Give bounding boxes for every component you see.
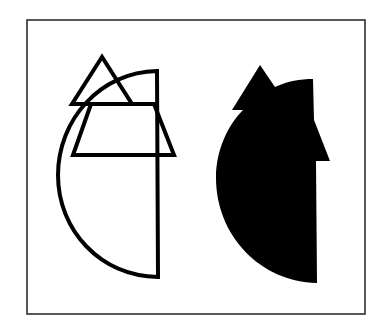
figure-canvas xyxy=(0,0,384,336)
small-triangle-outline xyxy=(72,57,132,104)
left-outline-figure xyxy=(58,57,174,277)
silhouette-shape xyxy=(216,65,330,283)
right-silhouette-figure xyxy=(216,65,330,283)
